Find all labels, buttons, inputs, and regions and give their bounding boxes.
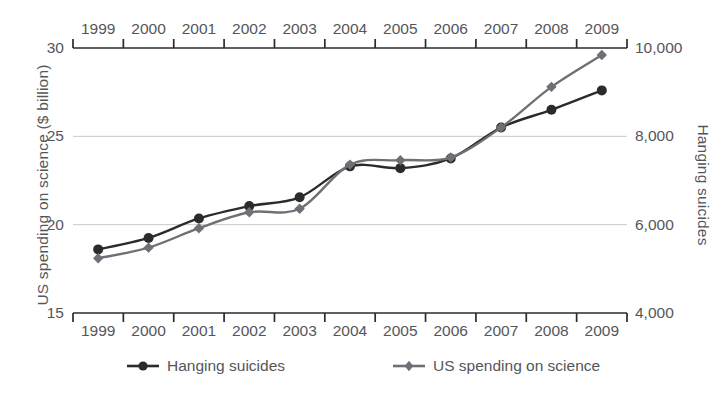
bottom-tick-2007: 2007: [473, 322, 529, 340]
chart-legend: Hanging suicides US spending on science: [0, 356, 724, 390]
bottom-tick-2009: 2009: [574, 322, 630, 340]
right-tick-8000: 8,000: [635, 127, 705, 145]
left-axis-title: US spending on science ($ billion): [34, 60, 52, 310]
bottom-tick-1999: 1999: [70, 322, 126, 340]
gridlines: [73, 136, 627, 224]
right-tick-10000: 10,000: [635, 39, 705, 57]
right-axis-title: Hanging suicides: [694, 60, 712, 310]
right-tick-6000: 6,000: [635, 216, 705, 234]
bottom-tick-2000: 2000: [121, 322, 177, 340]
top-tick-2002: 2002: [221, 20, 277, 38]
top-tick-2006: 2006: [423, 20, 479, 38]
series-hanging-suicides: [93, 85, 607, 254]
chart-container: US spending on science ($ billion) Hangi…: [0, 0, 724, 396]
legend-marker-circle-icon: [126, 359, 160, 373]
top-tick-1999: 1999: [70, 20, 126, 38]
top-tick-2003: 2003: [272, 20, 328, 38]
legend-label-hanging-suicides: Hanging suicides: [167, 358, 285, 374]
bottom-tick-2006: 2006: [423, 322, 479, 340]
series-layer: [93, 50, 607, 264]
legend-label-us-spending-on-science: US spending on science: [433, 358, 600, 374]
bottom-tick-2002: 2002: [221, 322, 277, 340]
bottom-tick-2001: 2001: [171, 322, 227, 340]
top-tick-2001: 2001: [171, 20, 227, 38]
right-tick-4000: 4,000: [635, 304, 705, 322]
left-tick-20: 20: [18, 216, 64, 234]
series-us-spending-on-science: [93, 50, 607, 264]
bottom-tick-2004: 2004: [322, 322, 378, 340]
bottom-tick-2008: 2008: [523, 322, 579, 340]
legend-item-hanging-suicides[interactable]: Hanging suicides: [126, 358, 285, 374]
left-tick-30: 30: [18, 39, 64, 57]
top-tick-2007: 2007: [473, 20, 529, 38]
legend-item-us-spending-on-science[interactable]: US spending on science: [392, 358, 600, 374]
left-tick-15: 15: [18, 304, 64, 322]
axes-frame: [73, 39, 627, 322]
bottom-tick-2005: 2005: [372, 322, 428, 340]
top-tick-2009: 2009: [574, 20, 630, 38]
left-tick-25: 25: [18, 127, 64, 145]
bottom-tick-2003: 2003: [272, 322, 328, 340]
top-tick-2008: 2008: [523, 20, 579, 38]
legend-marker-diamond-icon: [392, 359, 426, 373]
top-tick-2004: 2004: [322, 20, 378, 38]
top-tick-2000: 2000: [121, 20, 177, 38]
top-tick-2005: 2005: [372, 20, 428, 38]
